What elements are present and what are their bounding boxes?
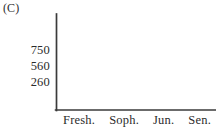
x-axis-tick-label: Soph. <box>109 113 139 127</box>
y-axis-tick-label: 750 <box>0 44 53 57</box>
x-axis-tick-label: Fresh. <box>63 113 95 127</box>
x-axis-tick-label: Jun. <box>153 113 174 127</box>
y-axis-tick-label: 560 <box>0 60 53 73</box>
chart-figure: (C) 750 560 260 Fresh. Soph. Jun. Sen. <box>0 0 216 130</box>
y-axis-tick-label: 260 <box>0 76 53 89</box>
x-axis-tick-labels: Fresh. Soph. Jun. Sen. <box>57 113 216 130</box>
plot-area <box>58 15 216 109</box>
x-axis-tick-label: Sen. <box>188 113 211 127</box>
y-axis-tick-labels: 750 560 260 <box>0 0 53 130</box>
